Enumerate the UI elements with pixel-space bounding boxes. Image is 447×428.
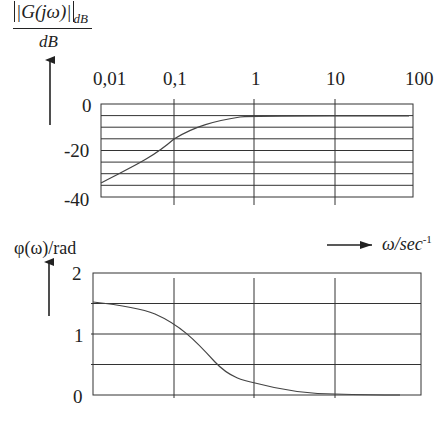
- phase-curve: [93, 302, 400, 395]
- bode-plot-graphics: [0, 0, 447, 428]
- magnitude-curve: [101, 116, 409, 183]
- phase-grid: [91, 273, 421, 398]
- magnitude-grid: [101, 99, 413, 205]
